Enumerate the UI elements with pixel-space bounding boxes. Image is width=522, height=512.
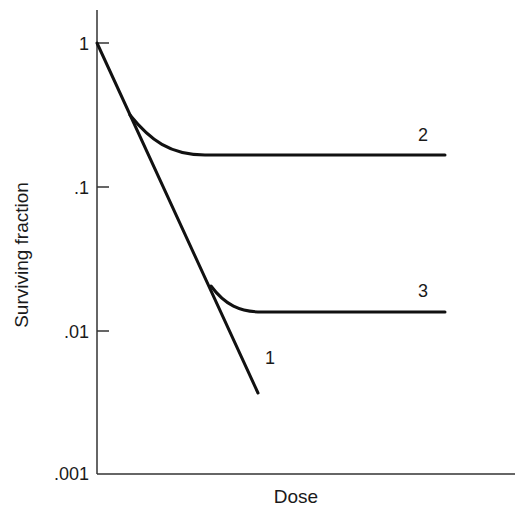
curve-1 [97,43,258,393]
y-tick-label-0.001: .001 [54,464,89,484]
x-axis-label: Dose [274,486,318,507]
y-axis-label: Surviving fraction [11,182,32,328]
curve-label-1: 1 [265,348,275,368]
curve-3 [211,286,445,312]
survival-chart: 1 .1 .01 .001 Surviving fraction Dose 2 … [0,0,522,512]
y-tick-label-0.01: .01 [64,322,89,342]
y-tick-label-0.1: .1 [74,178,89,198]
curve-label-2: 2 [418,125,428,145]
y-tick-label-1: 1 [79,34,89,54]
curve-label-3: 3 [418,281,428,301]
curve-2 [130,115,445,155]
